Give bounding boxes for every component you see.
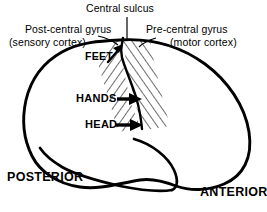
post-central-gyrus-label: Post-central gyrus	[25, 24, 111, 35]
feet-label: FEET	[85, 51, 113, 62]
hands-label: HANDS	[76, 93, 117, 105]
motor-cortex-label: (motor cortex)	[170, 37, 237, 48]
brain-diagram-figure: Central sulcus Post-central gyrus (senso…	[0, 0, 267, 212]
posterior-label: POSTERIOR	[7, 171, 83, 184]
sensory-cortex-label: (sensory cortex)	[9, 37, 86, 48]
head-label: HEAD	[85, 119, 117, 131]
anterior-label: ANTERIOR	[200, 186, 267, 199]
central-sulcus-label: Central sulcus	[86, 3, 154, 14]
pre-central-gyrus-label: Pre-central gyrus	[146, 24, 228, 35]
lateral-sylvian-fissure	[134, 139, 177, 190]
